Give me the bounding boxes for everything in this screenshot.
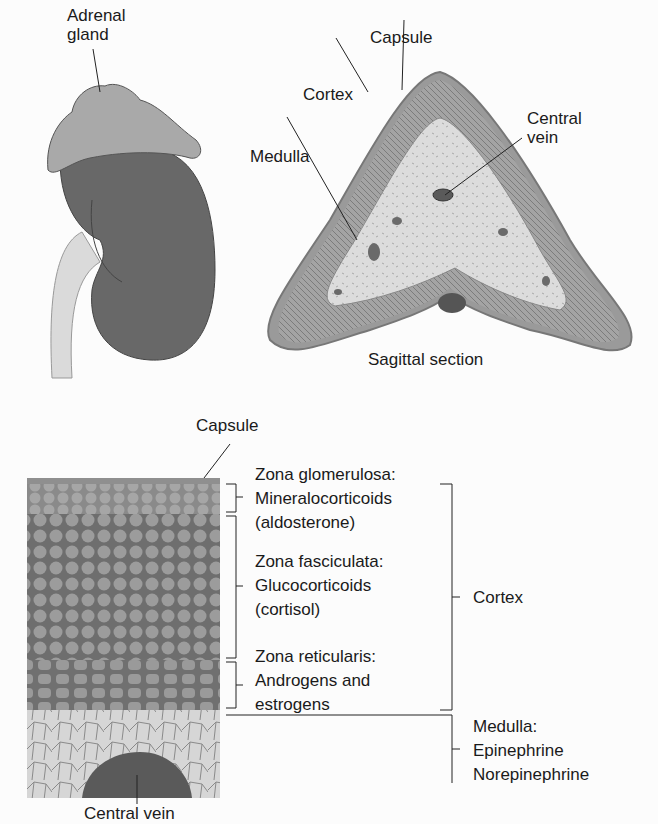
zona-reticularis-label: Zona reticularis: Androgens and estrogen…	[255, 645, 376, 717]
capsule-layer	[27, 478, 220, 484]
zona-glomerulosa-label: Zona glomerulosa: Mineralocorticoids (al…	[255, 463, 396, 535]
zona-glomerulosa	[27, 484, 220, 514]
sagittal-capsule-label: Capsule	[370, 28, 432, 47]
histology-capsule-label: Capsule	[196, 416, 258, 435]
medulla-label: Medulla: Epinephrine Norepinephrine	[473, 715, 589, 787]
sagittal-section-caption: Sagittal section	[368, 350, 483, 369]
sagittal-cortex-label: Cortex	[303, 85, 353, 104]
adrenal-gland-label: Adrenal gland	[67, 6, 126, 44]
zona-fasciculata-label: Zona fasciculata: Glucocorticoids (corti…	[255, 550, 384, 622]
cortex-label: Cortex	[473, 588, 523, 607]
central-vein-label: Central vein	[84, 804, 175, 823]
sagittal-medulla-label: Medulla	[250, 147, 310, 166]
zona-reticularis	[27, 660, 220, 710]
sagittal-central-vein-label: Central vein	[527, 109, 582, 147]
zona-fasciculata	[27, 514, 220, 660]
